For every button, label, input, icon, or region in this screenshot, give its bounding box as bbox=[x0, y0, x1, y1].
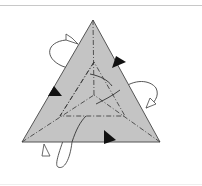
bottom-divider bbox=[0, 184, 202, 185]
tetrahedron-face bbox=[22, 20, 160, 142]
tetrahedron-diagram bbox=[0, 0, 202, 186]
